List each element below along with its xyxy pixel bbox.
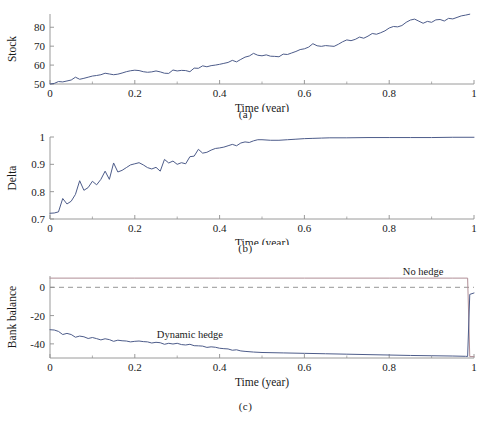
x-tick-label: 0.2 [128,361,142,373]
panel-b-caption: (b) [0,242,491,254]
series-line-no-hedge [50,278,474,356]
x-axis-title: Time (year) [235,376,289,389]
y-tick-label: -20 [30,310,45,322]
x-tick-label: 0.4 [213,87,227,99]
x-tick-label: 1 [471,222,477,234]
y-tick-label: 0 [40,281,46,293]
x-tick-label: 0.6 [298,87,312,99]
x-tick-label: 1 [471,87,477,99]
annotation-no-hedge: No hedge [403,266,444,277]
panel-a-plot: 00.20.40.60.8150607080Time (year)Stock [0,0,491,112]
x-tick-label: 0.4 [213,222,227,234]
x-tick-label: 1 [471,361,477,373]
annotation-dynamic-hedge: Dynamic hedge [157,329,224,340]
series-line-stock-price-path [50,14,470,84]
series-line-delta-of-option [50,137,474,213]
y-axis-title: Bank balance [6,286,18,348]
y-axis-title: Stock [6,36,18,62]
x-tick-label: 0.8 [382,87,396,99]
x-tick-label: 0.6 [298,361,312,373]
y-tick-label: 0.9 [31,158,45,170]
panel-a-caption: (a) [0,108,491,120]
panel-a-stock: 00.20.40.60.8150607080Time (year)Stock (… [0,0,491,130]
series-line-dynamic-hedge [50,293,474,356]
x-tick-label: 0 [47,361,53,373]
y-tick-label: 0.7 [31,213,45,225]
x-tick-label: 0.2 [128,222,142,234]
x-tick-label: 0.8 [382,222,396,234]
panel-c-bank-balance: 00.20.40.60.810-20-40No hedgeDynamic hed… [0,262,491,424]
y-tick-label: 80 [34,21,46,33]
x-tick-label: 0 [47,222,53,234]
panel-b-delta: 00.20.40.60.810.70.80.91Time (year)Delta… [0,125,491,265]
y-axis-title: Delta [6,166,18,191]
x-tick-label: 0.4 [213,361,227,373]
y-tick-label: 50 [34,78,46,90]
y-tick-label: 0.8 [31,186,45,198]
y-tick-label: 70 [34,40,46,52]
y-tick-label: 60 [34,59,46,71]
y-tick-label: 1 [40,131,46,143]
x-tick-label: 0.6 [298,222,312,234]
figure-hedging-simulation: 00.20.40.60.8150607080Time (year)Stock (… [0,0,491,424]
y-tick-label: -40 [30,338,45,350]
x-tick-label: 0.8 [382,361,396,373]
x-tick-label: 0 [47,87,53,99]
x-tick-label: 0.2 [128,87,142,99]
panel-c-plot: 00.20.40.60.810-20-40No hedgeDynamic hed… [0,262,491,402]
panel-c-caption: (c) [0,400,491,412]
panel-b-plot: 00.20.40.60.810.70.80.91Time (year)Delta [0,125,491,245]
